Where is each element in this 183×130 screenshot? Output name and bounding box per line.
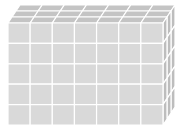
front-cube-face bbox=[74, 23, 96, 43]
front-cube-face bbox=[74, 84, 96, 104]
front-cube-face bbox=[8, 43, 30, 63]
front-cube-face bbox=[8, 84, 30, 104]
front-cube-face bbox=[52, 23, 74, 43]
cuboid-diagram bbox=[0, 0, 183, 130]
front-cube-face bbox=[141, 23, 163, 43]
front-cube-face bbox=[30, 84, 52, 104]
front-cube-face bbox=[74, 105, 96, 125]
front-cube-face bbox=[141, 105, 163, 125]
front-face bbox=[8, 23, 163, 125]
front-cube-face bbox=[30, 64, 52, 84]
front-cube-face bbox=[74, 43, 96, 63]
front-cube-face bbox=[30, 43, 52, 63]
front-cube-face bbox=[52, 84, 74, 104]
front-cube-face bbox=[119, 43, 141, 63]
front-cube-face bbox=[119, 84, 141, 104]
front-cube-face bbox=[119, 64, 141, 84]
front-cube-face bbox=[141, 84, 163, 104]
right-side-face bbox=[163, 5, 175, 125]
front-cube-face bbox=[141, 43, 163, 63]
front-cube-face bbox=[97, 43, 119, 63]
front-cube-face bbox=[52, 64, 74, 84]
front-cube-face bbox=[119, 23, 141, 43]
top-face bbox=[8, 5, 175, 23]
front-cube-face bbox=[8, 64, 30, 84]
front-cube-face bbox=[97, 64, 119, 84]
front-cube-face bbox=[30, 23, 52, 43]
front-cube-face bbox=[52, 105, 74, 125]
front-cube-face bbox=[97, 23, 119, 43]
front-cube-face bbox=[74, 64, 96, 84]
front-cube-face bbox=[97, 105, 119, 125]
front-cube-face bbox=[141, 64, 163, 84]
front-cube-face bbox=[52, 43, 74, 63]
front-cube-face bbox=[30, 105, 52, 125]
front-cube-face bbox=[8, 105, 30, 125]
front-cube-face bbox=[8, 23, 30, 43]
front-cube-face bbox=[97, 84, 119, 104]
front-cube-face bbox=[119, 105, 141, 125]
